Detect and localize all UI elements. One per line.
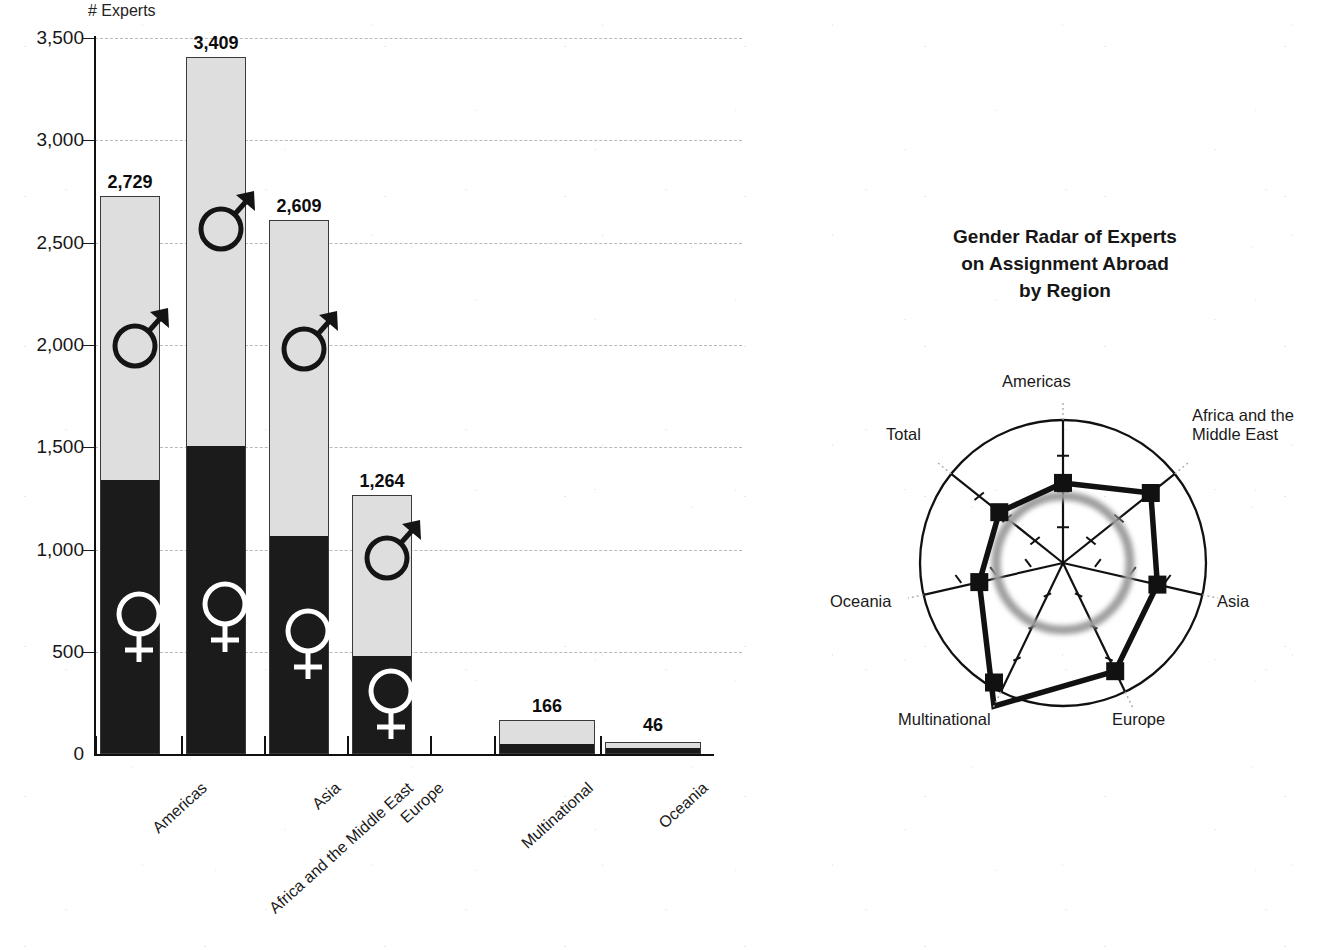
radar-marker-oceania xyxy=(970,573,988,591)
xtick-mark-5 xyxy=(494,736,496,754)
radar-chart: Gender Radar of Experts on Assignment Ab… xyxy=(830,210,1300,770)
radar-marker-europe xyxy=(1106,662,1124,680)
bar-africa-middle-east[interactable] xyxy=(186,57,246,754)
xcat-label-oceania: Oceania xyxy=(655,779,711,832)
radar-spokes xyxy=(924,420,1203,692)
xtick-mark-1 xyxy=(181,736,183,754)
xcat-label-americas: Americas xyxy=(149,779,211,837)
ytick-label-3000: 3,000 xyxy=(14,129,84,151)
x-axis-line xyxy=(94,754,714,756)
radar-plot-svg xyxy=(830,210,1300,770)
bar-segment-male-europe xyxy=(353,496,411,658)
ytick-label-1000: 1,000 xyxy=(14,539,84,561)
bar-value-label-europe: 1,264 xyxy=(352,471,412,492)
bar-multinational[interactable] xyxy=(499,720,595,754)
xcat-label-asia: Asia xyxy=(309,779,344,813)
xcat-label-africa-middle-east: Africa and the Middle East xyxy=(266,779,417,917)
bar-value-label-africa-middle-east: 3,409 xyxy=(186,33,246,54)
bar-value-label-multinational: 166 xyxy=(499,696,595,717)
bar-segment-female-africa-middle-east xyxy=(187,446,245,753)
xtick-mark-2 xyxy=(264,736,266,754)
bar-segment-female-asia xyxy=(270,536,328,753)
ytick-label-2500: 2,500 xyxy=(14,232,84,254)
bar-segment-male-africa-middle-east xyxy=(187,58,245,448)
bar-value-label-oceania: 46 xyxy=(605,715,701,736)
bar-segment-male-americas xyxy=(101,197,159,482)
ytick-label-500: 500 xyxy=(14,641,84,663)
bar-segment-female-europe xyxy=(353,656,411,753)
ytick-label-3500: 3,500 xyxy=(14,27,84,49)
xtick-mark-3 xyxy=(347,736,349,754)
y-axis-unit-label: # Experts xyxy=(88,2,156,20)
bar-segment-female-multinational xyxy=(500,744,594,753)
y-axis-line xyxy=(94,36,96,756)
bar-oceania[interactable] xyxy=(605,742,701,754)
radar-marker-africa-middle-east xyxy=(1142,484,1160,502)
y-axis-tick-labels: 3,500 3,000 2,500 2,000 1,500 1,000 500 … xyxy=(0,0,84,900)
ytick-label-1500: 1,500 xyxy=(14,436,84,458)
bar-value-label-asia: 2,609 xyxy=(269,196,329,217)
bar-americas[interactable] xyxy=(100,196,160,754)
radar-marker-americas xyxy=(1054,474,1072,492)
xtick-mark-6 xyxy=(600,736,602,754)
bar-value-label-americas: 2,729 xyxy=(100,172,160,193)
xtick-mark-0 xyxy=(95,736,97,754)
xcat-label-multinational: Multinational xyxy=(518,779,597,852)
bar-segment-male-multinational xyxy=(500,721,594,746)
radar-marker-asia xyxy=(1148,576,1166,594)
xtick-mark-4 xyxy=(430,736,432,754)
ytick-label-2000: 2,000 xyxy=(14,334,84,356)
bar-segment-female-americas xyxy=(101,480,159,753)
radar-marker-multinational xyxy=(985,674,1003,692)
radar-marker-total xyxy=(990,503,1008,521)
bar-segment-male-asia xyxy=(270,221,328,538)
bar-segment-female-oceania xyxy=(606,748,700,753)
bar-asia[interactable] xyxy=(269,220,329,754)
ytick-label-0: 0 xyxy=(14,743,84,765)
stacked-bar-chart: # Experts 3,500 3,000 2,500 2,000 1,500 … xyxy=(0,0,760,900)
bar-europe[interactable] xyxy=(352,495,412,754)
